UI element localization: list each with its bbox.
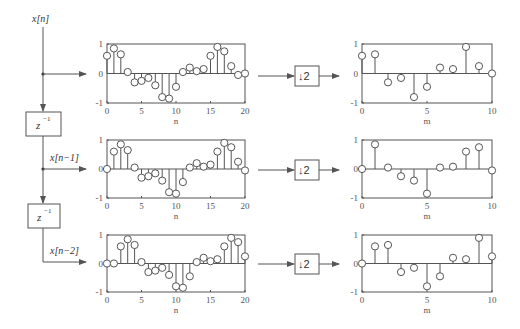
delay-z: z: [36, 211, 42, 223]
stem-marker: [179, 68, 186, 75]
downsampler-row-0: ↓2: [258, 66, 339, 86]
stem-marker: [131, 241, 138, 248]
x-tick-label: 5: [139, 201, 144, 211]
stem-marker: [179, 178, 186, 185]
stem-marker: [166, 271, 173, 278]
stem-marker: [138, 174, 145, 181]
y-tick-label: -1: [351, 193, 359, 203]
x-tick-label: 0: [105, 106, 110, 116]
stem-marker: [397, 173, 404, 180]
y-tick-label: 1: [99, 230, 104, 240]
delay-exponent: −1: [43, 115, 51, 123]
stem-marker: [207, 161, 214, 168]
branch-label-1: x[n−1]: [49, 152, 79, 163]
stem-marker: [152, 267, 159, 274]
stem-marker: [235, 158, 242, 165]
stem-plot-x-n: -10105101520n: [96, 39, 251, 126]
polyphase-diagram: x[n] z −1 z −1 x[n−1] x[n−2] ↓2 ↓2: [0, 0, 520, 329]
x-tick-label: 20: [241, 201, 251, 211]
stem-marker: [179, 284, 186, 291]
stem-plot-downsampled-0: -1010510m: [351, 39, 498, 126]
stem-marker: [228, 144, 235, 151]
stem-marker: [110, 45, 117, 52]
stem-marker: [358, 260, 365, 267]
stem-marker: [475, 63, 482, 70]
stem-marker: [475, 144, 482, 151]
stem-marker: [186, 273, 193, 280]
downsampler-row-2: ↓2: [258, 254, 339, 274]
stem-marker: [124, 68, 131, 75]
downsampler-label: ↓2: [298, 258, 310, 270]
y-tick-label: 1: [99, 135, 104, 145]
stem-marker: [228, 63, 235, 70]
stem-marker: [145, 268, 152, 275]
y-tick-label: -1: [96, 287, 104, 297]
stem-marker: [488, 253, 495, 260]
stem-marker: [410, 94, 417, 101]
stem-marker: [193, 68, 200, 75]
y-tick-label: 0: [354, 259, 359, 269]
stem-marker: [172, 83, 179, 90]
stem-marker: [145, 173, 152, 180]
stem-marker: [462, 148, 469, 155]
stem-marker: [145, 74, 152, 81]
stem-marker: [159, 264, 166, 271]
stem-marker: [117, 141, 124, 148]
stem-marker: [200, 254, 207, 261]
stem-marker: [166, 95, 173, 102]
stem-marker: [186, 164, 193, 171]
x-tick-label: 15: [206, 201, 216, 211]
stem-marker: [462, 256, 469, 263]
stem-marker: [131, 164, 138, 171]
stem-marker: [214, 43, 221, 50]
stem-marker: [200, 163, 207, 170]
stem-marker: [449, 254, 456, 261]
stem-marker: [138, 258, 145, 265]
delay-block-1: z −1: [26, 112, 61, 136]
stem-marker: [371, 243, 378, 250]
stem-marker: [488, 167, 495, 174]
stem-marker: [371, 51, 378, 58]
x-tick-label: 5: [425, 106, 430, 116]
stem-marker: [235, 71, 242, 78]
stem-plot-x-n-minus-2: -10105101520n: [96, 230, 251, 315]
x-axis-label: n: [174, 305, 179, 315]
x-tick-label: 10: [488, 201, 498, 211]
downsampler-label: ↓2: [298, 164, 310, 176]
delay-block-2: z −1: [28, 204, 60, 228]
stem-marker: [131, 79, 138, 86]
stem-plot-downsampled-1: -1010510m: [351, 135, 498, 221]
stem-marker: [214, 148, 221, 155]
x-tick-label: 5: [139, 295, 144, 305]
y-tick-label: -1: [96, 98, 104, 108]
x-axis-label: n: [174, 116, 179, 126]
stem-marker: [423, 83, 430, 90]
stem-marker: [423, 190, 430, 197]
stem-plot-x-n-minus-1: -10105101520n: [96, 135, 251, 221]
stem-marker: [410, 177, 417, 184]
x-tick-label: 5: [425, 295, 430, 305]
x-tick-label: 5: [425, 201, 430, 211]
x-axis-label: m: [423, 211, 430, 221]
stem-marker: [436, 273, 443, 280]
stem-marker: [159, 177, 166, 184]
stem-marker: [193, 258, 200, 265]
stem-marker: [117, 243, 124, 250]
stem-marker: [221, 48, 228, 55]
stem-marker: [186, 64, 193, 71]
y-tick-label: 0: [354, 69, 359, 79]
stem-marker: [436, 164, 443, 171]
stem-marker: [449, 163, 456, 170]
stem-marker: [124, 147, 131, 154]
y-tick-label: 1: [354, 135, 359, 145]
stem-marker: [423, 283, 430, 290]
y-tick-label: 0: [99, 164, 104, 174]
y-tick-label: 0: [99, 69, 104, 79]
branch-label-2: x[n−2]: [49, 245, 79, 256]
stem-plot-downsampled-2: -1010510m: [351, 230, 498, 315]
x-tick-label: 10: [488, 106, 498, 116]
stem-marker: [110, 148, 117, 155]
stem-marker: [397, 74, 404, 81]
x-tick-label: 15: [206, 295, 216, 305]
input-signal-label: x[n]: [31, 13, 49, 24]
